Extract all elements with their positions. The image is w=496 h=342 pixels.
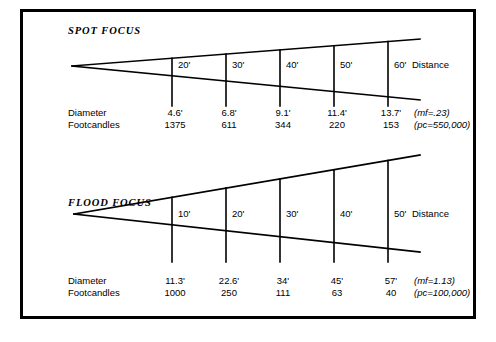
spot-diameter-value-1: 4.6' <box>167 107 182 118</box>
spot-distance-label-5: 60' <box>394 59 406 70</box>
flood-footcandles-value-3: 111 <box>276 287 290 298</box>
flood-distance-label-3: 30' <box>286 208 298 219</box>
spot-distance-label-4: 50' <box>340 59 352 70</box>
spot-distance-label-1: 20' <box>178 59 190 70</box>
spot-distance-axis-label: Distance <box>412 59 449 70</box>
flood-distance-label-5: 50' <box>394 208 406 219</box>
flood-distance-label-4: 40' <box>340 208 352 219</box>
spot-multiplying-factor-note: (mf=.23) <box>414 107 450 118</box>
spot-distance-label-3: 40' <box>286 59 298 70</box>
flood-footcandles-value-2: 250 <box>221 287 237 298</box>
spot-diameter-value-2: 6.8' <box>221 107 236 118</box>
flood-diameter-value-3: 34' <box>277 275 289 286</box>
flood-diameter-value-1: 11.3' <box>165 275 185 286</box>
spot-footcandles-value-3: 344 <box>275 119 291 130</box>
diagram-page: SPOT FOCUS 20' 30' 40' 50' 60' Distance … <box>0 0 496 342</box>
spot-footcandles-value-4: 220 <box>329 119 345 130</box>
flood-diameter-value-5: 57' <box>385 275 397 286</box>
spot-peak-candlepower-note: (pc=550,000) <box>414 119 470 130</box>
spot-diameter-value-5: 13.7' <box>381 107 401 118</box>
spot-diameter-value-3: 9.1' <box>275 107 290 118</box>
flood-focus-title: FLOOD FOCUS <box>68 197 152 208</box>
diagram-border-frame <box>20 9 476 319</box>
flood-footcandles-value-5: 40 <box>386 287 397 298</box>
spot-footcandles-value-1: 1375 <box>164 119 185 130</box>
spot-focus-title: SPOT FOCUS <box>68 25 141 36</box>
flood-distance-axis-label: Distance <box>412 208 449 219</box>
flood-footcandles-value-4: 63 <box>332 287 343 298</box>
flood-peak-candlepower-note: (pc=100,000) <box>414 287 470 298</box>
flood-diameter-value-4: 45' <box>331 275 343 286</box>
flood-distance-label-2: 20' <box>232 208 244 219</box>
spot-diameter-value-4: 11.4' <box>327 107 347 118</box>
spot-distance-label-2: 30' <box>232 59 244 70</box>
flood-diameter-value-2: 22.6' <box>219 275 239 286</box>
flood-diameter-row-label: Diameter <box>68 275 107 286</box>
flood-distance-label-1: 10' <box>178 208 190 219</box>
flood-footcandles-row-label: Footcandles <box>68 287 120 298</box>
flood-footcandles-value-1: 1000 <box>164 287 185 298</box>
spot-footcandles-value-2: 611 <box>221 119 236 130</box>
flood-multiplying-factor-note: (mf=1.13) <box>414 275 455 286</box>
spot-diameter-row-label: Diameter <box>68 107 107 118</box>
spot-footcandles-row-label: Footcandles <box>68 119 120 130</box>
spot-footcandles-value-5: 153 <box>383 119 399 130</box>
